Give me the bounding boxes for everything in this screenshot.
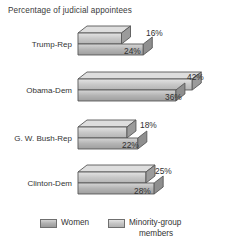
category-label-clinton-dem: Clinton-Dem	[0, 179, 72, 188]
legend-label-women: Women	[61, 218, 89, 229]
value-label-women: 36%	[165, 92, 182, 102]
category-label-trump-rep: Trump-Rep	[0, 40, 72, 49]
value-label-minority: 18%	[140, 120, 157, 130]
value-label-minority: 42%	[187, 72, 204, 82]
category-label-obama-dem: Obama-Dem	[0, 86, 72, 95]
legend-swatch-minority-icon	[108, 219, 125, 228]
value-label-minority: 16%	[146, 28, 163, 38]
legend-label-minority-line2: members	[129, 229, 181, 240]
plot-area: Trump-Rep16%24%Obama-Dem42%36%G. W. Bush…	[0, 24, 226, 210]
legend-item-women: Women	[40, 218, 89, 229]
bar-chart: Percentage of judicial appointees Trump-…	[0, 0, 226, 249]
value-label-minority: 25%	[155, 166, 172, 176]
legend-swatch-women-icon	[40, 219, 57, 228]
category-label-g-w-bush-rep: G. W. Bush-Rep	[0, 134, 72, 143]
chart-legend: Women Minority-group members	[0, 214, 226, 249]
chart-title: Percentage of judicial appointees	[8, 6, 132, 15]
value-label-women: 24%	[124, 46, 141, 56]
value-label-women: 28%	[134, 186, 151, 196]
legend-label-minority-line1: Minority-group	[129, 218, 181, 229]
legend-item-minority: Minority-group members	[108, 218, 181, 239]
value-label-women: 22%	[122, 140, 139, 150]
